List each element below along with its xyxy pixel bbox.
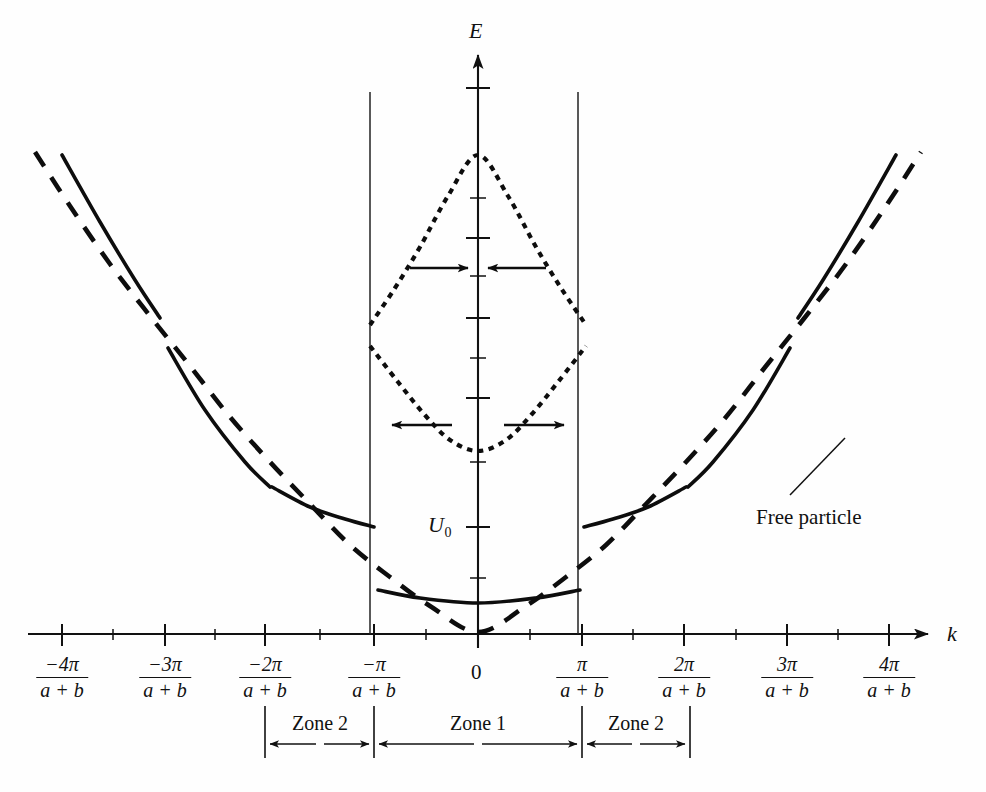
- tick-denominator: a + b: [556, 678, 608, 702]
- x-axis-label: k: [947, 621, 957, 647]
- x-tick-label-0: −4πa + b: [36, 654, 88, 701]
- x-tick-label-1: −3πa + b: [139, 654, 191, 701]
- tick-numerator: −2π: [239, 654, 291, 678]
- curve-band-3-right: [798, 155, 896, 318]
- x-tick-label-2: −2πa + b: [239, 654, 291, 701]
- tick-numerator: 4π: [863, 654, 915, 678]
- tick-denominator: a + b: [658, 678, 710, 702]
- x-tick-label-5: 2πa + b: [658, 654, 710, 701]
- tick-denominator: a + b: [139, 678, 191, 702]
- y-axis-label: E: [469, 18, 482, 44]
- zone-label-0: Zone 2: [292, 712, 348, 735]
- x-tick-label-6: 3πa + b: [761, 654, 813, 701]
- x-tick-label-4: πa + b: [556, 654, 608, 701]
- u0-subscript: 0: [444, 525, 451, 540]
- u0-reference-label: U0: [428, 512, 451, 541]
- tick-denominator: a + b: [348, 678, 400, 702]
- x-tick-label-7: 4πa + b: [863, 654, 915, 701]
- curve-band-1-right: [584, 487, 686, 527]
- free-particle-leader-line: [790, 438, 845, 495]
- energy-band-figure: E k 0 U0 Free particle −4πa + b−3πa + b−…: [0, 0, 986, 792]
- tick-numerator: −3π: [139, 654, 191, 678]
- tick-denominator: a + b: [239, 678, 291, 702]
- zone-label-2: Zone 2: [608, 712, 664, 735]
- curve-band-2-left: [168, 348, 270, 487]
- tick-numerator: −π: [348, 654, 400, 678]
- u0-symbol: U: [428, 512, 444, 537]
- origin-tick-label: 0: [471, 660, 482, 685]
- tick-numerator: π: [556, 654, 608, 678]
- zone-boundary-lines: [370, 92, 578, 634]
- tick-numerator: −4π: [36, 654, 88, 678]
- tick-denominator: a + b: [863, 678, 915, 702]
- curve-band-3-left: [62, 155, 160, 318]
- tick-numerator: 3π: [761, 654, 813, 678]
- tick-denominator: a + b: [36, 678, 88, 702]
- tick-denominator: a + b: [761, 678, 813, 702]
- curve-band-1-left: [272, 487, 374, 527]
- tick-numerator: 2π: [658, 654, 710, 678]
- x-tick-label-3: −πa + b: [348, 654, 400, 701]
- free-particle-label: Free particle: [756, 505, 862, 530]
- axes-group: [28, 55, 928, 648]
- zone-label-1: Zone 1: [450, 712, 506, 735]
- curve-band-2-right: [688, 348, 790, 487]
